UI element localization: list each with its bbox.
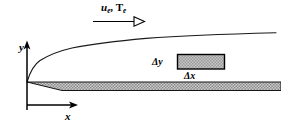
x-axis-label: x bbox=[65, 111, 71, 122]
diagram-canvas bbox=[0, 0, 281, 128]
flat-plate-body bbox=[27, 82, 281, 91]
delta-y-label: Δy bbox=[152, 57, 163, 67]
freestream-conditions-label: ue, Te bbox=[101, 2, 126, 13]
freestream-separator: , T bbox=[110, 1, 123, 13]
freestream-temperature-subscript: e bbox=[123, 7, 126, 15]
freestream-velocity-subscript: e bbox=[107, 7, 110, 15]
y-axis-label: y bbox=[19, 42, 24, 53]
control-volume-element bbox=[178, 55, 225, 70]
flat-plate-boundary-layer-figure: ue, Te y x Δy Δx bbox=[0, 0, 281, 128]
delta-x-label: Δx bbox=[184, 71, 195, 81]
freestream-arrowhead-icon bbox=[134, 17, 145, 26]
